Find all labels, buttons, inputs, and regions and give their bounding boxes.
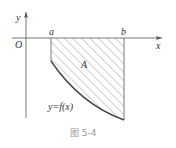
y-axis-label: y (15, 12, 21, 23)
x-axis-label: x (155, 40, 161, 51)
b-label: b (121, 26, 126, 37)
region-label: A (80, 59, 88, 70)
figure-caption: 图 5-4 (70, 128, 97, 138)
a-label: a (49, 26, 54, 37)
origin-label: O (15, 39, 22, 50)
curve-label: y=f(x) (47, 101, 74, 113)
integral-area-diagram: y x O a b A y=f(x) 图 5-4 (0, 0, 176, 148)
